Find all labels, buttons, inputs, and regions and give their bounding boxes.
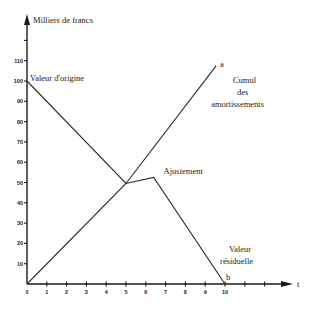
y-tick-label: 100 xyxy=(14,78,23,84)
annotation: des xyxy=(237,87,248,97)
annotation: a xyxy=(220,59,224,69)
y-tick-label: 110 xyxy=(14,58,23,64)
annotation: résiduelle xyxy=(220,256,253,266)
y-axis-label: Milliers de francs xyxy=(33,15,93,25)
x-tick-label: 10 xyxy=(222,289,228,295)
x-tick-label: 7 xyxy=(164,289,167,295)
annotation: Cumul xyxy=(233,75,257,85)
x-tick-label: 3 xyxy=(85,289,88,295)
y-tick-label: 30 xyxy=(17,220,23,226)
x-axis-arrow-icon xyxy=(281,281,293,287)
annotation: Ajustement xyxy=(164,166,204,176)
axes: t Milliers de francs xyxy=(24,14,300,289)
y-tick-label: 50 xyxy=(17,180,23,186)
chart: t Milliers de francs 012345678910 102030… xyxy=(0,0,309,311)
annotation: amortissements xyxy=(211,99,264,109)
x-tick-label: 8 xyxy=(184,289,187,295)
x-tick-label: 0 xyxy=(25,289,28,295)
y-tick-label: 80 xyxy=(17,119,23,125)
x-axis-label: t xyxy=(297,279,300,289)
y-tick-label: 60 xyxy=(17,159,23,165)
annotation: Valeur xyxy=(229,244,251,254)
y-tick-label: 70 xyxy=(17,139,23,145)
annotation: b xyxy=(226,272,230,282)
y-axis-arrow-icon xyxy=(24,14,30,25)
y-tick-label: 10 xyxy=(17,261,23,267)
annotations: Valeur d'origineAjustementaCumuldesamort… xyxy=(30,59,264,282)
x-tick-label: 9 xyxy=(204,289,207,295)
x-tick-label: 2 xyxy=(65,289,68,295)
y-tick-label: 20 xyxy=(17,240,23,246)
annotation: Valeur d'origine xyxy=(30,73,84,83)
x-tick-label: 5 xyxy=(124,289,127,295)
y-ticks: 102030405060708090100110 xyxy=(14,40,27,266)
x-tick-label: 6 xyxy=(144,289,147,295)
y-tick-label: 90 xyxy=(17,98,23,104)
x-tick-label: 4 xyxy=(105,289,109,295)
y-tick-label: 40 xyxy=(17,200,23,206)
x-tick-label: 1 xyxy=(45,289,48,295)
